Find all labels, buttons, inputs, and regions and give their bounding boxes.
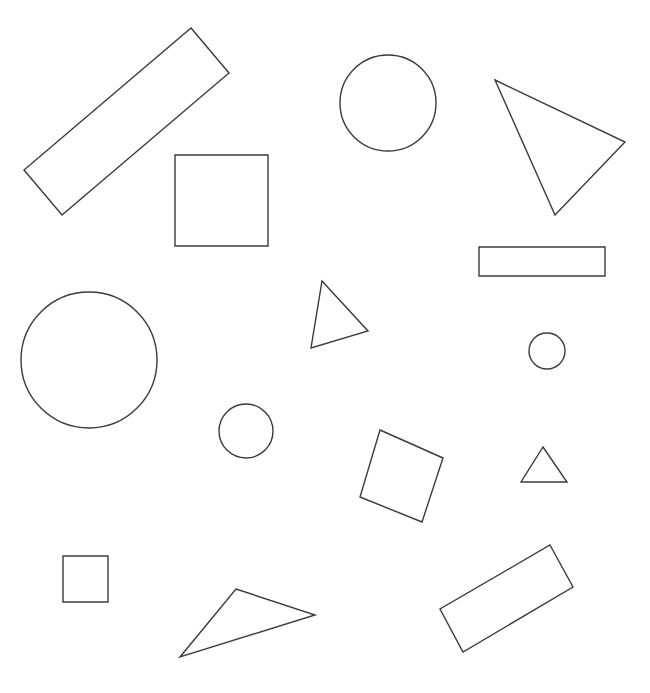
- circle-large-left: [21, 292, 157, 428]
- shapes-drawing: [0, 0, 650, 693]
- triangle-small-right: [521, 447, 567, 482]
- square-small-bottom-left: [63, 556, 108, 602]
- rectangle-right-horizontal: [479, 247, 605, 276]
- rotated-rectangle-bottom-right: [440, 545, 573, 652]
- triangle-top-right: [495, 80, 625, 215]
- rotated-rectangle-large-top-left: [24, 28, 229, 215]
- rotated-square-center-bottom: [360, 430, 443, 522]
- triangle-center: [311, 281, 368, 348]
- circle-small-center: [219, 404, 273, 458]
- triangle-bottom-center: [180, 589, 315, 657]
- square-upper-left: [175, 155, 268, 246]
- shape-canvas-root: [0, 0, 650, 693]
- circle-top-center: [340, 55, 436, 151]
- circle-small-right: [529, 333, 565, 369]
